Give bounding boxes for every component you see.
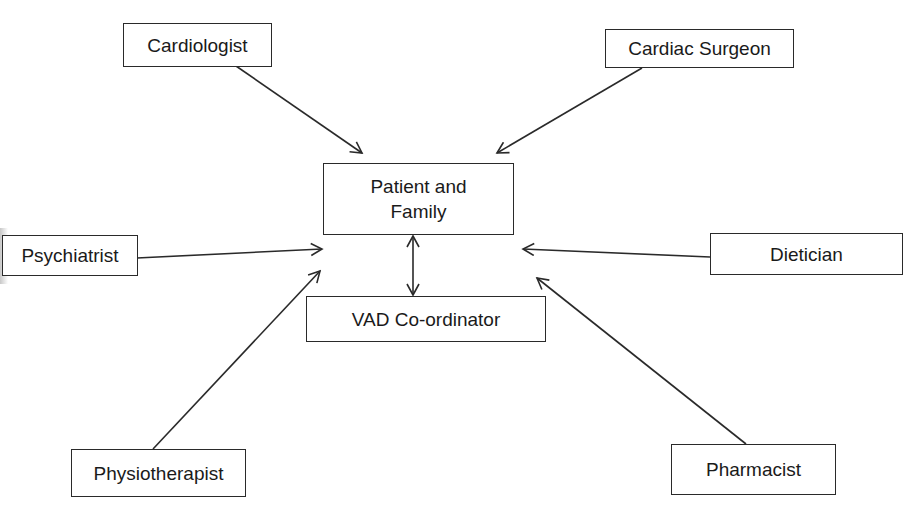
- node-label: VAD Co-ordinator: [352, 307, 501, 332]
- node-label: Psychiatrist: [21, 243, 118, 268]
- node-patient-family: Patient and Family: [323, 163, 514, 235]
- node-cardiac-surgeon: Cardiac Surgeon: [605, 29, 794, 68]
- care-team-diagram: Cardiologist Cardiac Surgeon Patient and…: [0, 0, 917, 517]
- node-label: Cardiac Surgeon: [628, 36, 771, 61]
- node-label: Patient and Family: [370, 174, 466, 224]
- node-label: Pharmacist: [706, 457, 801, 482]
- node-cardiologist: Cardiologist: [123, 23, 272, 67]
- edge-physiotherapist-to-patient: [153, 271, 320, 449]
- edge-psychiatrist-to-patient: [137, 249, 322, 258]
- node-label: Physiotherapist: [94, 461, 224, 486]
- edge-pharmacist-to-patient: [537, 278, 746, 444]
- edge-cardiac-surgeon-to-patient: [497, 68, 642, 153]
- node-psychiatrist: Psychiatrist: [2, 235, 138, 276]
- node-pharmacist: Pharmacist: [671, 444, 836, 495]
- node-physiotherapist: Physiotherapist: [71, 449, 246, 497]
- edge-dietician-to-patient: [523, 249, 710, 257]
- node-label: Cardiologist: [147, 33, 247, 58]
- edge-cardiologist-to-patient: [236, 66, 362, 153]
- node-label: Dietician: [770, 242, 843, 267]
- node-vad-coordinator: VAD Co-ordinator: [306, 296, 546, 342]
- node-dietician: Dietician: [710, 233, 903, 275]
